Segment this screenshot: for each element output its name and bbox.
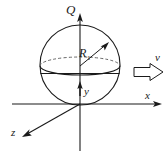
physics-sphere-figure: Q R 1 v x y z bbox=[0, 0, 168, 158]
label-x-axis: x bbox=[144, 89, 150, 101]
label-q-axis: Q bbox=[66, 2, 76, 17]
label-radius: R bbox=[78, 46, 87, 60]
label-radius-subscript: 1 bbox=[87, 54, 91, 62]
arrow-up-right-icon bbox=[101, 42, 109, 50]
figure-canvas: Q R 1 v x y z bbox=[0, 0, 168, 158]
velocity-group bbox=[134, 64, 163, 81]
z-axis-line bbox=[27, 104, 80, 134]
y-axis-indicator bbox=[77, 81, 82, 96]
coordinate-axes bbox=[12, 13, 162, 151]
label-y-axis: y bbox=[83, 85, 89, 97]
label-z-axis: z bbox=[10, 126, 16, 138]
block-arrow-right-icon bbox=[134, 64, 163, 81]
label-velocity: v bbox=[155, 51, 160, 63]
arrow-down-left-icon bbox=[22, 129, 32, 137]
